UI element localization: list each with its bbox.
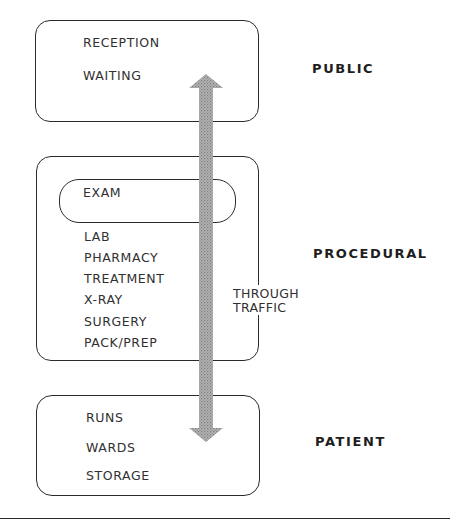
- room-pack-prep: PACK/PREP: [84, 336, 157, 350]
- room-reception: RECEPTION: [83, 36, 160, 50]
- double-headed-arrow-icon: [186, 74, 226, 442]
- room-x-ray: X-RAY: [84, 293, 123, 307]
- through-traffic-line-2: TRAFFIC: [233, 301, 299, 315]
- footer-divider: [0, 518, 450, 519]
- through-traffic-label: THROUGH TRAFFIC: [233, 287, 299, 315]
- room-treatment: TREATMENT: [84, 272, 165, 286]
- room-exam: EXAM: [83, 186, 121, 200]
- room-surgery: SURGERY: [84, 315, 147, 329]
- zone-label-public: PUBLIC: [312, 62, 374, 76]
- room-wards: WARDS: [86, 441, 135, 455]
- room-storage: STORAGE: [86, 469, 150, 483]
- room-runs: RUNS: [86, 411, 124, 425]
- room-waiting: WAITING: [83, 69, 141, 83]
- through-traffic-line-1: THROUGH: [233, 287, 299, 301]
- room-pharmacy: PHARMACY: [84, 251, 158, 265]
- zone-label-procedural: PROCEDURAL: [313, 247, 428, 261]
- zone-label-patient: PATIENT: [315, 435, 386, 449]
- room-lab: LAB: [84, 230, 110, 244]
